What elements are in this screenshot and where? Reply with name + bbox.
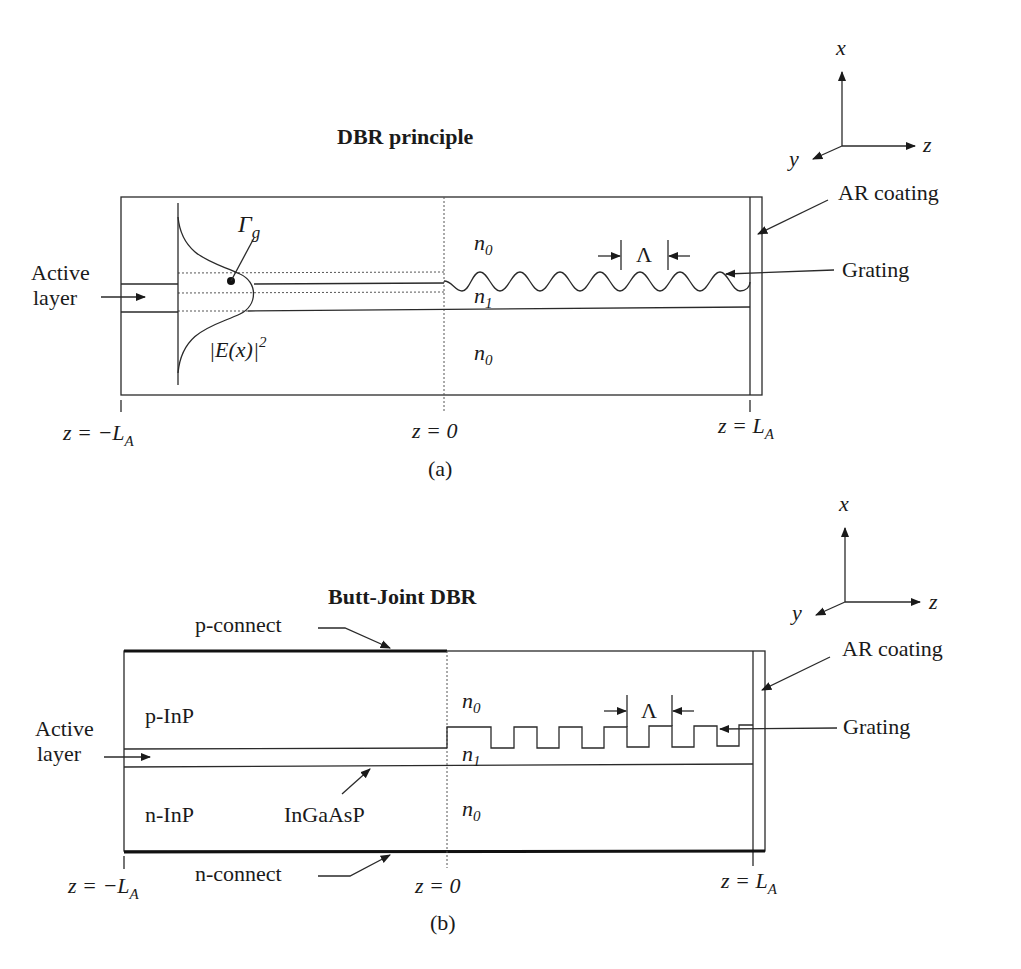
n0-bottom-label-a: n0: [474, 340, 493, 368]
caption-a: (a): [428, 456, 452, 481]
axis-z-label: z: [922, 132, 932, 157]
active-layer-label-a-line2: layer: [33, 285, 78, 310]
axes-b: x z y: [790, 491, 938, 625]
p-connect-arrow: [318, 628, 390, 648]
ar-coating-label-a: AR coating: [838, 180, 939, 205]
figure-b-title: Butt-Joint DBR: [328, 584, 478, 609]
active-layer-top-b: [124, 748, 447, 749]
n-inp-label: n-InP: [145, 802, 194, 827]
active-layer-bottom-b: [124, 764, 753, 767]
axis-y-label-b: y: [790, 600, 802, 625]
gamma-label: Γg: [237, 211, 260, 242]
z-left-label-b: z = −LA: [67, 873, 140, 902]
device-box-a: [121, 197, 762, 395]
z-zero-label-b: z = 0: [414, 873, 460, 898]
dotted-line-1: [178, 272, 444, 273]
sinusoidal-grating: [444, 272, 750, 291]
y-axis-arrow: [813, 146, 842, 159]
ar-coating-label-b: AR coating: [842, 636, 943, 661]
n-connect-electrode: [124, 851, 765, 852]
n0-bottom-label-b: n0: [462, 796, 481, 824]
active-layer-top-right-a: [254, 283, 444, 284]
axis-z-label-b: z: [928, 589, 938, 614]
grating-label-b: Grating: [843, 714, 910, 739]
n1-label-a: n1: [474, 283, 493, 311]
z-zero-label-a: z = 0: [411, 418, 457, 443]
axis-x-label-b: x: [838, 491, 849, 516]
figure-b: x z y Butt-Joint DBR p-InP n-InP InGaAsP…: [35, 491, 943, 935]
dbr-figure: x z y DBR principle Γg |E(x)|2 Active: [0, 0, 1021, 969]
active-layer-label-a-line1: Active: [31, 260, 90, 285]
period-label-b: Λ: [641, 698, 657, 723]
n-connect-arrow: [318, 855, 390, 876]
dotted-line-2: [178, 292, 444, 293]
device-box-b: [124, 651, 765, 851]
active-layer-label-b-line2: layer: [37, 741, 82, 766]
n-connect-label: n-connect: [195, 861, 282, 886]
figure-a: x z y DBR principle Γg |E(x)|2 Active: [31, 35, 939, 481]
caption-b: (b): [430, 910, 456, 935]
axis-x-label: x: [835, 35, 846, 60]
ar-coating-arrow-b: [762, 657, 830, 690]
y-axis-arrow-b: [816, 602, 845, 615]
n0-top-label-b: n0: [462, 688, 481, 716]
ar-coating-arrow-a: [758, 200, 828, 234]
z-left-label-a: z = −LA: [62, 420, 135, 449]
n1-label-b: n1: [462, 741, 481, 769]
grating-arrow-a: [726, 270, 834, 274]
z-right-label-a: z = LA: [717, 413, 775, 442]
rectangular-grating: [447, 725, 753, 748]
p-inp-label: p-InP: [145, 703, 194, 728]
ingaasp-label: InGaAsP: [284, 802, 365, 827]
p-connect-label: p-connect: [195, 612, 282, 637]
axis-y-label: y: [787, 146, 799, 171]
n0-top-label-a: n0: [474, 230, 493, 258]
active-layer-bottom-right-a: [248, 307, 750, 311]
figure-a-title: DBR principle: [337, 124, 474, 149]
grating-arrow-b: [720, 728, 837, 729]
period-label-a: Λ: [636, 242, 652, 267]
field-label: |E(x)|2: [209, 334, 267, 362]
grating-label-a: Grating: [842, 257, 909, 282]
ingaasp-arrow: [342, 769, 370, 794]
active-layer-label-b-line1: Active: [35, 716, 94, 741]
axes-a: x z y: [787, 35, 932, 171]
z-right-label-b: z = LA: [720, 868, 778, 897]
